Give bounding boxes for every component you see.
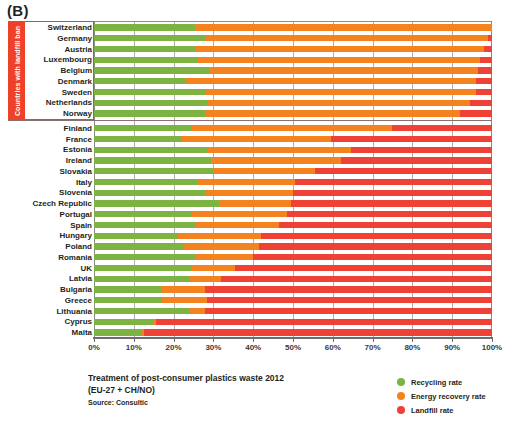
- group-separator: [8, 120, 492, 121]
- legend: Recycling rateEnergy recovery rateLandfi…: [397, 375, 486, 417]
- recycling-segment: [94, 243, 184, 249]
- energy-recovery-segment: [213, 168, 314, 174]
- recycling-segment: [94, 200, 219, 206]
- chart-row: Belgium: [0, 66, 507, 75]
- landfill-segment: [259, 243, 492, 249]
- country-label: Austria: [4, 45, 92, 54]
- recycling-segment: [94, 329, 142, 335]
- x-tick: [134, 337, 135, 342]
- stacked-bar: [94, 46, 492, 52]
- chart-row: Estonia: [0, 145, 507, 154]
- landfill-segment: [484, 46, 492, 52]
- recycling-segment: [94, 89, 205, 95]
- legend-label: Recycling rate: [411, 378, 462, 387]
- x-tick-label: 20%: [166, 343, 182, 352]
- chart-row: Denmark: [0, 77, 507, 86]
- landfill-segment: [253, 254, 492, 260]
- chart-row: Sweden: [0, 88, 507, 97]
- country-label: Hungary: [4, 231, 92, 240]
- country-label: Denmark: [4, 77, 92, 86]
- stacked-bar: [94, 243, 492, 249]
- recycling-segment: [94, 136, 182, 142]
- stacked-bar: [94, 125, 492, 131]
- legend-item: Recycling rate: [397, 375, 486, 389]
- landfill-segment: [144, 329, 492, 335]
- country-label: Spain: [4, 221, 92, 230]
- x-tick: [253, 337, 254, 342]
- x-tick-label: 50%: [285, 343, 301, 352]
- chart-row: Austria: [0, 45, 507, 54]
- caption-source: Source: Consultic: [88, 397, 303, 408]
- energy-recovery-segment: [209, 67, 478, 73]
- landfill-segment: [156, 319, 492, 325]
- energy-recovery-segment: [182, 136, 331, 142]
- x-tick: [373, 337, 374, 342]
- stacked-bar: [94, 179, 492, 185]
- stacked-bar: [94, 286, 492, 292]
- energy-recovery-segment: [205, 110, 460, 116]
- stacked-bar: [94, 136, 492, 142]
- stacked-bar: [94, 89, 492, 95]
- recycling-segment: [94, 168, 213, 174]
- caption-subtitle: (EU-27 + CH/NO): [88, 384, 303, 396]
- energy-recovery-segment: [205, 190, 293, 196]
- recycling-segment: [94, 46, 195, 52]
- chart-row: Malta: [0, 328, 507, 337]
- landfill-segment: [205, 286, 492, 292]
- recycling-segment: [94, 286, 162, 292]
- energy-recovery-segment: [195, 222, 279, 228]
- stacked-bar: [94, 319, 492, 325]
- x-tick: [94, 337, 95, 342]
- landfill-segment: [480, 57, 492, 63]
- country-label: Estonia: [4, 145, 92, 154]
- country-label: Poland: [4, 242, 92, 251]
- energy-recovery-segment: [178, 233, 262, 239]
- x-tick: [412, 337, 413, 342]
- circle-marker-icon: [397, 378, 405, 386]
- recycling-segment: [94, 211, 192, 217]
- recycling-segment: [94, 233, 178, 239]
- recycling-segment: [94, 297, 162, 303]
- country-label: Lithuania: [4, 307, 92, 316]
- recycling-segment: [94, 57, 197, 63]
- landfill-segment: [478, 67, 492, 73]
- recycling-segment: [94, 254, 195, 260]
- chart-row: Germany: [0, 34, 507, 43]
- landfill-segment: [460, 110, 492, 116]
- country-label: Latvia: [4, 274, 92, 283]
- energy-recovery-segment: [211, 157, 340, 163]
- landfill-segment: [293, 190, 492, 196]
- chart-row: Romania: [0, 253, 507, 262]
- energy-recovery-segment: [192, 265, 236, 271]
- country-label: Belgium: [4, 66, 92, 75]
- energy-recovery-segment: [195, 24, 492, 30]
- stacked-bar: [94, 211, 492, 217]
- landfill-segment: [295, 179, 492, 185]
- chart-row: Switzerland: [0, 23, 507, 32]
- stacked-bar: [94, 222, 492, 228]
- x-tick-label: 10%: [126, 343, 142, 352]
- country-label: Slovakia: [4, 167, 92, 176]
- country-label: France: [4, 135, 92, 144]
- country-label: Czech Republic: [4, 199, 92, 208]
- country-label: Sweden: [4, 88, 92, 97]
- chart-row: Ireland: [0, 156, 507, 165]
- recycling-segment: [94, 110, 205, 116]
- x-tick: [174, 337, 175, 342]
- landfill-segment: [207, 297, 492, 303]
- stacked-bar: [94, 110, 492, 116]
- x-tick: [213, 337, 214, 342]
- stacked-bar: [94, 254, 492, 260]
- chart-row: Luxembourg: [0, 55, 507, 64]
- panel-letter: (B): [7, 2, 29, 19]
- stacked-bar: [94, 200, 492, 206]
- energy-recovery-segment: [195, 46, 484, 52]
- landfill-segment: [279, 222, 492, 228]
- legend-item: Energy recovery rate: [397, 389, 486, 403]
- landfill-segment: [315, 168, 492, 174]
- chart-row: Greece: [0, 296, 507, 305]
- chart-row: Hungary: [0, 231, 507, 240]
- energy-recovery-segment: [162, 286, 206, 292]
- circle-marker-icon: [397, 406, 405, 414]
- landfill-segment: [476, 78, 492, 84]
